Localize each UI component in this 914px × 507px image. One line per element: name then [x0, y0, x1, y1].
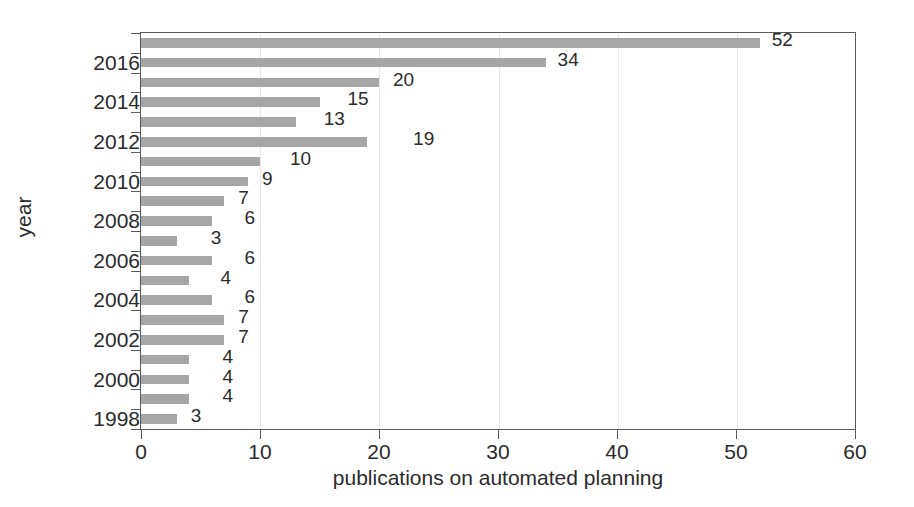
x-axis: 0102030405060	[0, 0, 914, 507]
x-axis-title: publications on automated planning	[140, 466, 856, 490]
x-tick-label-60: 60	[820, 440, 890, 464]
x-tick	[141, 430, 142, 439]
chart-page: 523420151319109763646774443 year 2016201…	[0, 0, 914, 507]
x-tick	[617, 430, 618, 439]
x-tick-label-10: 10	[225, 440, 295, 464]
x-tick-label-30: 30	[463, 440, 533, 464]
x-tick-label-40: 40	[582, 440, 652, 464]
x-tick	[260, 430, 261, 439]
x-tick-label-0: 0	[106, 440, 176, 464]
x-tick	[736, 430, 737, 439]
x-tick-label-50: 50	[701, 440, 771, 464]
x-tick	[498, 430, 499, 439]
x-tick	[379, 430, 380, 439]
x-tick-label-20: 20	[344, 440, 414, 464]
x-tick	[855, 430, 856, 439]
